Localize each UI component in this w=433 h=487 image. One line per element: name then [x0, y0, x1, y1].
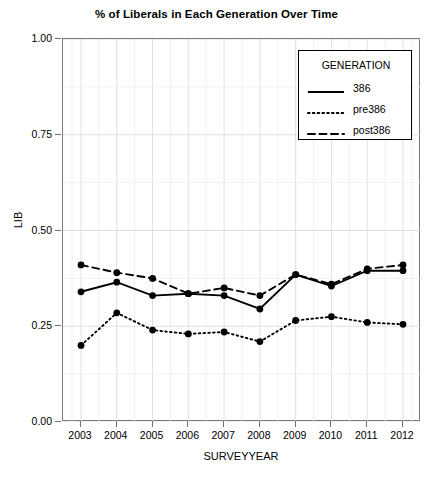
x-tick-mark — [80, 421, 81, 427]
legend-line-swatch-dashed — [307, 125, 345, 135]
data-point-post386 — [292, 271, 299, 278]
x-tick-mark — [259, 421, 260, 427]
x-tick-mark — [223, 421, 224, 427]
data-point-post386 — [185, 290, 192, 297]
x-tick-mark — [187, 421, 188, 427]
x-tick-mark — [116, 421, 117, 427]
legend-item-pre386[interactable]: pre386 — [307, 99, 411, 119]
data-point-post386 — [221, 285, 228, 292]
data-point-pre386 — [221, 329, 228, 336]
x-tick-mark — [330, 421, 331, 427]
data-point-post386 — [328, 281, 335, 288]
data-point-post386 — [149, 275, 156, 282]
y-tick-mark — [55, 38, 61, 39]
y-tick-label: 0.00 — [6, 415, 52, 427]
data-point-386 — [256, 306, 263, 313]
data-point-pre386 — [78, 342, 85, 349]
y-tick-label: 0.75 — [6, 128, 52, 140]
y-tick-mark — [55, 230, 61, 231]
data-point-pre386 — [149, 327, 156, 334]
legend-title: GENERATION — [299, 59, 413, 71]
data-point-386 — [149, 292, 156, 299]
data-point-pre386 — [256, 338, 263, 345]
x-axis-title: SURVEYYEAR — [62, 450, 420, 462]
x-tick-mark — [366, 421, 367, 427]
legend-label: post386 — [353, 124, 390, 136]
data-point-386 — [78, 288, 85, 295]
data-point-pre386 — [364, 319, 371, 326]
data-point-post386 — [256, 292, 263, 299]
data-point-pre386 — [185, 331, 192, 338]
data-point-pre386 — [328, 313, 335, 320]
legend-item-386[interactable]: 386 — [307, 78, 411, 98]
y-tick-label: 1.00 — [6, 32, 52, 44]
data-point-386 — [113, 279, 120, 286]
legend-label: 386 — [353, 82, 371, 94]
legend-line-swatch-dotted — [307, 104, 345, 114]
legend-line-swatch-solid — [307, 83, 345, 93]
y-tick-label: 0.25 — [6, 319, 52, 331]
data-point-post386 — [364, 265, 371, 272]
data-point-post386 — [400, 262, 407, 269]
x-tick-mark — [295, 421, 296, 427]
x-axis-tick-labels: 2003200420052006200720082009201020112012 — [62, 421, 420, 449]
data-point-post386 — [113, 269, 120, 276]
legend-item-post386[interactable]: post386 — [307, 120, 411, 140]
x-tick-mark — [402, 421, 403, 427]
legend: GENERATION 386pre386post386 — [298, 50, 412, 140]
x-tick-mark — [152, 421, 153, 427]
data-point-pre386 — [292, 317, 299, 324]
data-point-386 — [221, 292, 228, 299]
y-tick-mark — [55, 134, 61, 135]
y-tick-mark — [55, 421, 61, 422]
x-tick-label: 2012 — [380, 429, 424, 441]
y-tick-mark — [55, 325, 61, 326]
y-axis-tick-labels: 0.000.250.500.751.00 — [0, 38, 52, 421]
chart-container: % of Liberals in Each Generation Over Ti… — [0, 0, 433, 487]
data-point-pre386 — [400, 321, 407, 328]
legend-label: pre386 — [353, 103, 386, 115]
data-point-post386 — [78, 262, 85, 269]
chart-title: % of Liberals in Each Generation Over Ti… — [0, 8, 433, 20]
y-axis-title: LIB — [12, 190, 24, 250]
data-point-pre386 — [113, 309, 120, 316]
